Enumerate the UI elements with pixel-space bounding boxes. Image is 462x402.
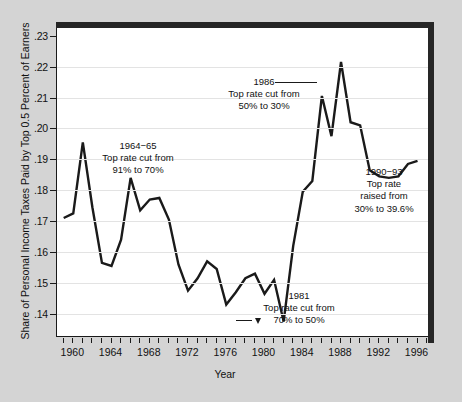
annotation-1981-line2: Top rate cut from xyxy=(238,302,360,314)
x-axis-tick-mark xyxy=(111,338,112,343)
x-axis-tick-mark xyxy=(264,338,265,343)
annotation-1990-93-line1: 1990−93 xyxy=(330,166,438,178)
x-axis-tick-label: 1980 xyxy=(252,346,275,358)
x-axis-tick-mark xyxy=(206,338,207,343)
annotation-1990-93-line4: 30% to 39.6% xyxy=(330,203,438,215)
annotation-1981-line3: 70% to 50% xyxy=(273,314,324,325)
x-axis-tick-label: 1964 xyxy=(99,346,122,358)
x-axis-tick-mark xyxy=(91,338,92,343)
x-axis-title-text: Year xyxy=(214,368,235,380)
x-axis-tick-mark xyxy=(407,338,408,343)
x-axis-tick-mark xyxy=(311,338,312,343)
x-axis-tick-mark xyxy=(168,338,169,343)
x-axis-tick-label: 1960 xyxy=(61,346,84,358)
x-axis-tick-mark xyxy=(340,338,341,343)
x-axis-tick-mark xyxy=(292,338,293,343)
annotation-1990-93: 1990−93 Top rate raised from 30% to 39.6… xyxy=(330,166,438,215)
annotation-1986-line3: 50% to 30% xyxy=(203,100,325,112)
x-axis-tick-mark xyxy=(139,338,140,343)
x-axis-tick-mark xyxy=(187,338,188,343)
annotation-1964-65-line3: 91% to 70% xyxy=(68,164,208,176)
gridline xyxy=(57,67,428,68)
x-axis-tick-label: 1984 xyxy=(290,346,313,358)
x-axis-tick-mark xyxy=(216,338,217,343)
x-axis-tick-label: 1976 xyxy=(214,346,237,358)
x-axis-tick-mark xyxy=(130,338,131,343)
x-axis-tick-mark xyxy=(235,338,236,343)
annotation-1981-line1: 1981 xyxy=(238,290,360,302)
gridline xyxy=(57,252,428,253)
gridline xyxy=(57,221,428,222)
annotation-1986: 1986 Top rate cut from 50% to 30% xyxy=(203,76,325,113)
x-axis-tick-label: 1992 xyxy=(367,346,390,358)
annotation-1990-93-line3: raised from xyxy=(330,190,438,202)
gridline xyxy=(57,283,428,284)
x-axis-tick-label: 1988 xyxy=(328,346,351,358)
x-axis-tick-mark xyxy=(331,338,332,343)
x-axis-tick-mark xyxy=(101,338,102,343)
x-axis-tick-mark xyxy=(426,338,427,343)
x-axis-tick-mark xyxy=(63,338,64,343)
x-axis-tick-mark xyxy=(158,338,159,343)
gridline xyxy=(57,128,428,129)
x-axis-tick-mark xyxy=(225,338,226,343)
annotation-1964-65-line2: Top rate cut from xyxy=(68,152,208,164)
annotation-1986-line1: 1986 xyxy=(253,76,274,87)
y-axis-title: Share of Personal Income Taxes Paid by T… xyxy=(19,16,31,346)
annotation-1990-93-line2: Top rate xyxy=(330,178,438,190)
x-axis-tick-mark xyxy=(82,338,83,343)
annotation-1981-leader-line xyxy=(236,320,252,321)
x-axis-tick-mark xyxy=(254,338,255,343)
x-axis-tick-mark xyxy=(397,338,398,343)
x-axis-tick-mark xyxy=(321,338,322,343)
x-axis-tick-label: 1968 xyxy=(137,346,160,358)
x-axis-tick-mark xyxy=(197,338,198,343)
x-axis-tick-mark xyxy=(388,338,389,343)
x-axis-title: Year xyxy=(0,368,462,380)
x-axis-tick-mark xyxy=(378,338,379,343)
x-axis-tick-mark xyxy=(359,338,360,343)
annotation-1986-line2: Top rate cut from xyxy=(203,88,325,100)
x-axis-tick-mark xyxy=(302,338,303,343)
annotation-1981-pointer-icon xyxy=(255,318,261,324)
x-axis-tick-label: 1996 xyxy=(405,346,428,358)
x-axis-tick-mark xyxy=(417,338,418,343)
chart-figure: .23.22.21.20.19.18.17.16.15.14 Share of … xyxy=(0,0,462,402)
annotation-1986-leader-line xyxy=(275,82,317,83)
x-axis-tick-mark xyxy=(177,338,178,343)
x-axis-tick-mark xyxy=(72,338,73,343)
x-axis-tick-mark xyxy=(244,338,245,343)
x-axis-tick-mark xyxy=(273,338,274,343)
x-axis-tick-mark xyxy=(120,338,121,343)
x-axis-tick-label: 1972 xyxy=(175,346,198,358)
x-axis-tick-mark xyxy=(149,338,150,343)
x-axis-tick-mark xyxy=(283,338,284,343)
x-axis-tick-mark xyxy=(350,338,351,343)
x-axis-tick-mark xyxy=(369,338,370,343)
annotation-1964-65: 1964−65 Top rate cut from 91% to 70% xyxy=(68,140,208,177)
annotation-1964-65-line1: 1964−65 xyxy=(68,140,208,152)
